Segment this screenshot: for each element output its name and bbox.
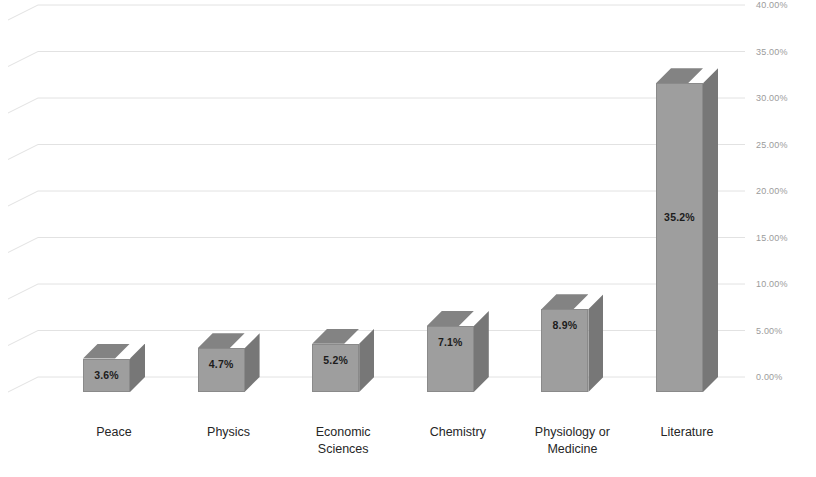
- bar-column[interactable]: 5.2%: [312, 329, 359, 392]
- x-axis-category-label: Physics: [169, 424, 289, 441]
- y-axis-tick-label: 10.00%: [756, 279, 812, 289]
- bar-data-label: 4.7%: [198, 358, 245, 370]
- x-axis-category-label: EconomicSciences: [283, 424, 403, 458]
- bar-top-face: [541, 294, 588, 309]
- x-axis-category-label: Chemistry: [398, 424, 518, 441]
- bar-front-face: [656, 83, 703, 392]
- y-axis-tick-label: 5.00%: [756, 326, 812, 336]
- x-axis-category-label: Physiology orMedicine: [512, 424, 632, 458]
- y-axis-tick-label: 20.00%: [756, 186, 812, 196]
- y-axis: 0.00%5.00%10.00%15.00%20.00%25.00%30.00%…: [756, 0, 816, 420]
- bar-data-label: 8.9%: [541, 319, 588, 331]
- bar-top-face: [198, 333, 245, 348]
- bar-data-label: 7.1%: [427, 336, 474, 348]
- y-axis-tick-label: 0.00%: [756, 372, 812, 382]
- x-axis-category-label: Peace: [54, 424, 174, 441]
- bar-column[interactable]: 7.1%: [427, 311, 474, 392]
- category-label-line: Sciences: [283, 441, 403, 458]
- bar-column[interactable]: 3.6%: [83, 344, 130, 392]
- bar-column[interactable]: 35.2%: [656, 68, 703, 392]
- bar-top-face: [83, 344, 130, 359]
- bar-side-face: [703, 68, 718, 392]
- bar-side-face: [245, 333, 260, 392]
- bar-side-face: [588, 294, 603, 392]
- bar-data-label: 5.2%: [312, 354, 359, 366]
- bar-side-face: [359, 329, 374, 392]
- bar-side-face: [474, 311, 489, 392]
- x-axis-categories: PeacePhysicsEconomicSciencesChemistryPhy…: [0, 424, 816, 477]
- x-axis-category-label: Literature: [627, 424, 747, 441]
- category-label-line: Literature: [627, 424, 747, 441]
- bar-top-face: [312, 329, 359, 344]
- bar-side-face: [130, 344, 145, 392]
- bar-front-face: [312, 344, 359, 392]
- y-axis-tick-label: 25.00%: [756, 140, 812, 150]
- bar-column[interactable]: 8.9%: [541, 294, 588, 392]
- bar-column[interactable]: 4.7%: [198, 333, 245, 392]
- y-axis-tick-label: 40.00%: [756, 0, 812, 10]
- category-label-line: Physics: [169, 424, 289, 441]
- bar-top-face: [656, 68, 703, 83]
- category-label-line: Economic: [283, 424, 403, 441]
- category-label-line: Physiology or: [512, 424, 632, 441]
- category-label-line: Peace: [54, 424, 174, 441]
- y-axis-tick-label: 15.00%: [756, 233, 812, 243]
- y-axis-tick-label: 30.00%: [756, 93, 812, 103]
- category-label-line: Medicine: [512, 441, 632, 458]
- bar-chart: 3.6%4.7%5.2%7.1%8.9%35.2% 0.00%5.00%10.0…: [0, 0, 816, 477]
- bars-layer: 3.6%4.7%5.2%7.1%8.9%35.2%: [0, 0, 816, 420]
- bar-top-face: [427, 311, 474, 326]
- category-label-line: Chemistry: [398, 424, 518, 441]
- y-axis-tick-label: 35.00%: [756, 47, 812, 57]
- bar-data-label: 3.6%: [83, 369, 130, 381]
- bar-data-label: 35.2%: [656, 211, 703, 223]
